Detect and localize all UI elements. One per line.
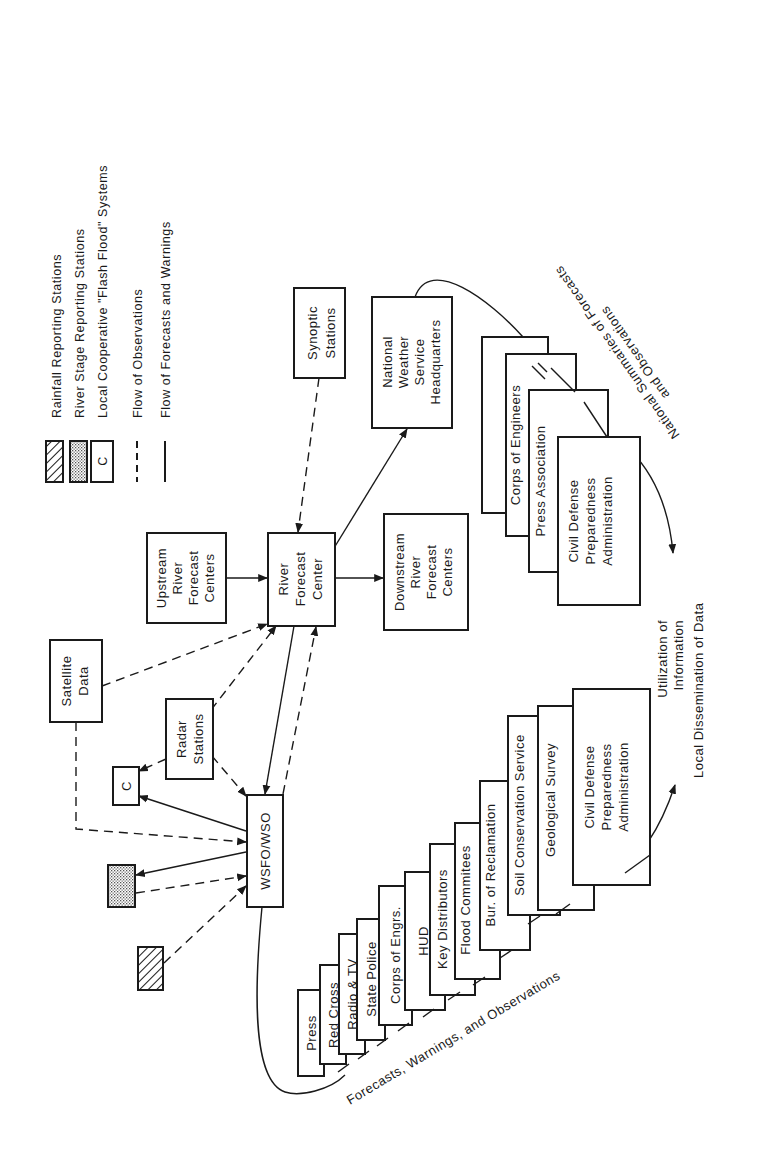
upstream-label-2: River bbox=[170, 561, 185, 594]
local-dissemination-stack: Press Red Cross Radio & TV State Police … bbox=[298, 689, 650, 1108]
national-label-press-assoc: Press Association bbox=[533, 425, 548, 536]
upstream-label-1: Upstream bbox=[154, 548, 169, 608]
legend-label-rainfall: Rainfall Reporting Stations bbox=[50, 254, 64, 418]
downstream-label-4: Centers bbox=[440, 547, 455, 596]
legend-label-forecasts: Flow of Forecasts and Warnings bbox=[159, 221, 173, 418]
node-synoptic-stations: Synoptic Stations bbox=[294, 288, 345, 378]
local-label-flood-committees: Flood Commitees bbox=[458, 845, 473, 954]
rfc-label-3: Center bbox=[310, 558, 325, 600]
outcome-line-local-dissemination: Local Dissemination of Data bbox=[691, 602, 706, 778]
nws-label-3: Service bbox=[412, 339, 427, 386]
wsfo-label: WSFO/WSO bbox=[258, 812, 273, 890]
legend-label-river-stage: River Stage Reporting Stations bbox=[73, 228, 87, 418]
c-glyph: C bbox=[119, 781, 134, 791]
node-radar-stations: Radar Stations bbox=[166, 699, 213, 779]
local-label-cd-2: Preparedness bbox=[599, 744, 614, 831]
downstream-label-2: River bbox=[408, 555, 423, 588]
legend-label-flash-flood: Local Cooperative "Flash Flood" Systems bbox=[96, 165, 110, 418]
local-label-bur-reclamation: Bur. of Reclamation bbox=[483, 804, 498, 927]
national-label-cd-2: Preparedness bbox=[583, 478, 598, 565]
node-nws-headquarters: National Weather Service Headquarters bbox=[372, 297, 452, 428]
node-river-forecast-center: River Forecast Center bbox=[268, 533, 335, 626]
national-label-corps: Corps of Engineers bbox=[508, 385, 523, 505]
local-label-key-distributors: Key Distributors bbox=[435, 869, 450, 969]
legend: C Rainfall Reporting Stations River Stag… bbox=[46, 165, 173, 482]
local-label-corps-engrs: Corps of Engrs. bbox=[388, 906, 403, 1004]
local-label-geological-survey: Geological Survey bbox=[543, 743, 558, 857]
radar-label-2: Stations bbox=[191, 714, 206, 765]
local-label-press: Press bbox=[304, 1015, 319, 1051]
outcome-labels: Utilization of Information Local Dissemi… bbox=[655, 602, 706, 778]
radar-label-1: Radar bbox=[174, 720, 189, 758]
node-river-stage-station bbox=[108, 865, 135, 907]
downstream-label-1: Downstream bbox=[392, 533, 407, 611]
satellite-label-2: Data bbox=[76, 666, 91, 696]
synoptic-label-2: Stations bbox=[323, 308, 338, 359]
upstream-label-4: Centers bbox=[202, 553, 217, 602]
nws-label-2: Weather bbox=[396, 336, 411, 389]
rfc-label-1: River bbox=[276, 562, 291, 595]
legend-hatched-icon bbox=[46, 441, 63, 482]
node-satellite-data: Satellite Data bbox=[50, 640, 102, 722]
rfc-label-2: Forecast bbox=[293, 552, 308, 607]
synoptic-label-1: Synoptic bbox=[305, 306, 320, 360]
node-local-flash-flood-c: C bbox=[113, 767, 139, 805]
node-downstream-rfc: Downstream River Forecast Centers bbox=[384, 514, 468, 630]
node-rainfall-station bbox=[138, 947, 163, 990]
nws-label-1: National bbox=[380, 336, 395, 388]
upstream-label-3: Forecast bbox=[186, 551, 201, 606]
local-label-hud: HUD bbox=[416, 926, 431, 956]
national-label-cd-3: Administration bbox=[600, 476, 615, 565]
local-item-civil-defense: Civil Defense Preparedness Administratio… bbox=[573, 689, 650, 885]
national-dissemination-stack: Red Cross Corps of Engineers Press Assoc… bbox=[482, 263, 682, 605]
local-label-state-police: State Police bbox=[364, 941, 379, 1016]
local-label-cd-1: Civil Defense bbox=[582, 745, 597, 828]
outcome-line-utilization: Utilization of bbox=[655, 620, 670, 698]
nws-label-4: Headquarters bbox=[428, 320, 443, 405]
national-label-cd-1: Civil Defense bbox=[566, 479, 581, 562]
local-label-soil-conservation: Soil Conservation Service bbox=[512, 734, 527, 895]
local-label-cd-3: Administration bbox=[616, 742, 631, 831]
downstream-label-3: Forecast bbox=[424, 545, 439, 600]
legend-dotted-icon bbox=[70, 441, 87, 482]
legend-c-glyph: C bbox=[96, 456, 110, 466]
satellite-label-1: Satellite bbox=[59, 656, 74, 707]
weather-forecast-flow-diagram: C Rainfall Reporting Stations River Stag… bbox=[0, 0, 757, 1166]
legend-label-observations: Flow of Observations bbox=[131, 289, 145, 418]
outcome-line-information: Information bbox=[671, 620, 686, 691]
node-wsfo-wso: WSFO/WSO bbox=[247, 795, 283, 907]
node-upstream-rfc: Upstream River Forecast Centers bbox=[147, 533, 226, 623]
